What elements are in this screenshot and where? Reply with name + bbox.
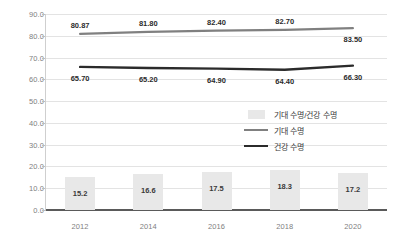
data-point-label: 64.90 [194,75,240,84]
legend-item[interactable]: 기대 수명 [243,122,383,138]
data-point-label: 80.87 [57,20,103,29]
data-point-label: 82.40 [194,17,240,26]
y-axis-tick-label: 10.0 [4,184,44,193]
data-point-label: 64.40 [262,76,308,85]
y-axis-tick-label: 50.0 [4,97,44,106]
legend-box-icon [248,110,265,119]
legend-item[interactable]: 기대 수명/건강 수명 [243,106,383,122]
x-axis-tick-label: 2020 [323,222,383,231]
legend-line-icon [244,145,268,148]
y-axis-tick-label: 60.0 [4,75,44,84]
life-expectancy-line [80,28,353,34]
x-axis-tick-label: 2018 [255,222,315,231]
bar-value-label: 15.2 [58,188,102,197]
data-point-label: 66.30 [330,72,376,81]
x-axis-tick-label: 2016 [187,222,247,231]
y-axis-tick-label: 40.0 [4,118,44,127]
bar-value-label: 17.5 [195,183,239,192]
data-point-label: 83.50 [330,35,376,44]
legend-swatch [243,145,269,148]
legend-label: 기대 수명 [274,125,304,136]
healthy-life-expectancy-line [80,66,353,70]
x-axis-tick-label: 2014 [118,222,178,231]
data-point-label: 65.70 [57,73,103,82]
y-axis-tick-label: 70.0 [4,53,44,62]
data-point-label: 81.80 [125,18,171,27]
combo-chart: 0.010.020.030.040.050.060.070.080.090.0 … [0,0,393,246]
bar-value-label: 18.3 [263,182,307,191]
y-axis-tick-label: 20.0 [4,162,44,171]
y-axis-tick-label: 90.0 [4,10,44,19]
y-axis-tick-label: 80.0 [4,31,44,40]
x-axis-tick-label: 2012 [50,222,110,231]
data-point-label: 82.70 [262,16,308,25]
bar-value-label: 16.6 [126,185,170,194]
chart-legend: 기대 수명/건강 수명기대 수명건강 수명 [243,106,383,154]
legend-label: 건강 수명 [274,141,304,152]
bar-value-label: 17.2 [331,184,375,193]
legend-swatch [243,110,269,119]
y-axis-tick-label: 0.0 [4,206,44,215]
legend-swatch [243,129,269,131]
y-axis-tick-label: 30.0 [4,140,44,149]
legend-label: 기대 수명/건강 수명 [274,109,337,120]
data-point-label: 65.20 [125,75,171,84]
legend-item[interactable]: 건강 수명 [243,138,383,154]
legend-line-icon [244,129,268,131]
